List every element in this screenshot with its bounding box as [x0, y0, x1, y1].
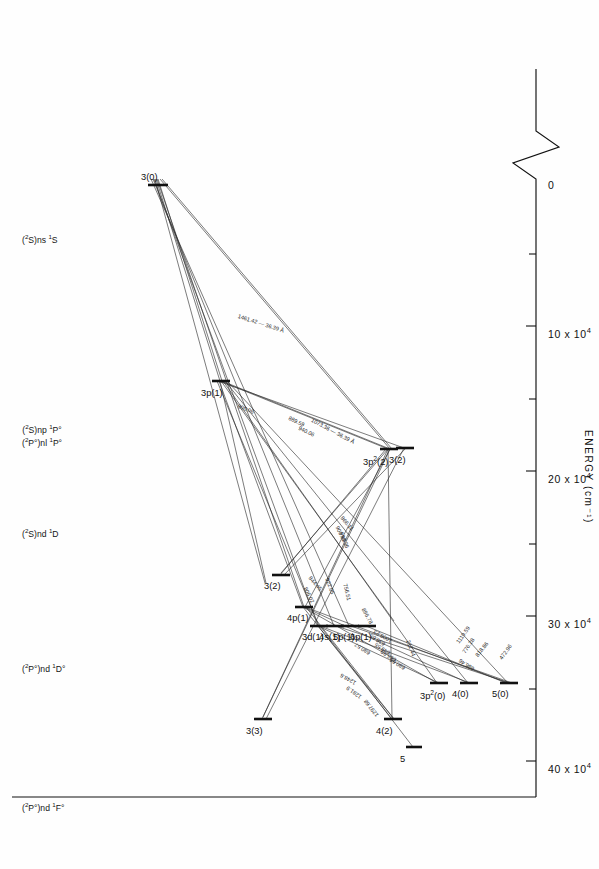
level-label-3-0: 3(0) — [141, 172, 158, 182]
diagram-canvas — [0, 0, 599, 869]
axis-tick-0: 0 — [548, 179, 554, 191]
level-label-3p2-2: 3p2(2) — [363, 455, 388, 467]
column-header-1d: (2S)nd 1D — [22, 527, 59, 540]
column-header-1po: (2S)np 1P°(2P°)nl 1P° — [22, 423, 62, 448]
grotrian-diagram: 0 10 x 104 20 x 104 30 x 104 40 x 104 EN… — [0, 0, 599, 869]
axis-lines — [12, 69, 559, 797]
axis-title-energy: ENERGY (cm⁻¹) — [583, 430, 594, 524]
level-label-3-3: 3(3) — [246, 726, 263, 736]
level-label-4-0: 4(0) — [452, 689, 469, 699]
level-label-5-0: 5(0) — [492, 689, 509, 699]
figure-page: 0 10 x 104 20 x 104 30 x 104 40 x 104 EN… — [0, 0, 599, 869]
axis-tick-40e4: 40 x 104 — [548, 761, 591, 775]
level-label-4p-1: 4p(1) — [287, 613, 309, 623]
column-header-1s: (2S)ns 1S — [22, 233, 58, 246]
level-label-3-2: 3(2) — [389, 455, 406, 465]
axis-ticks — [526, 254, 536, 761]
level-label-5-2: 5 — [400, 754, 405, 764]
axis-tick-30e4: 30 x 104 — [548, 616, 591, 630]
level-label-4-2: 4(2) — [376, 726, 393, 736]
level-label-3p2-0: 3p2(0) — [420, 689, 445, 701]
column-header-1fo: (2P°)nd 1F° — [22, 801, 64, 814]
level-label-3-2-do: 3(2) — [264, 581, 281, 591]
level-label-3p-1: 3p(1) — [201, 388, 223, 398]
axis-tick-10e4: 10 x 104 — [548, 326, 591, 340]
column-header-1do: (2P°)nd 1D° — [22, 662, 65, 675]
